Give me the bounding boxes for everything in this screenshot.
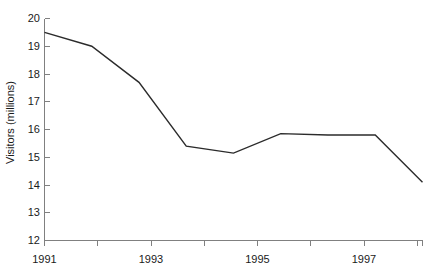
data-line-visitors: [45, 32, 423, 182]
x-axis-tick-labels: 1991 1993 1995 1997: [32, 253, 376, 265]
y-tick-label: 17: [28, 95, 40, 107]
y-tick-label: 12: [28, 234, 40, 246]
chart-container: Visitors (millions) 20 19 18 17 16 15 14…: [0, 0, 429, 271]
y-tick-label: 15: [28, 151, 40, 163]
x-tick-label: 1993: [139, 253, 163, 265]
x-tick-label: 1995: [245, 253, 269, 265]
y-axis-tick-labels: 20 19 18 17 16 15 14 13 12: [28, 12, 40, 246]
y-axis-label: Visitors (millions): [4, 81, 16, 164]
x-tick-label: 1991: [32, 253, 56, 265]
y-tick-label: 16: [28, 123, 40, 135]
y-tick-label: 14: [28, 179, 40, 191]
line-chart: Visitors (millions) 20 19 18 17 16 15 14…: [0, 0, 429, 271]
y-tick-label: 13: [28, 206, 40, 218]
x-tick-label: 1997: [352, 253, 376, 265]
x-axis-tick-marks: [45, 241, 423, 246]
y-axis-tick-marks: [45, 19, 50, 241]
y-tick-label: 18: [28, 68, 40, 80]
y-tick-label: 19: [28, 40, 40, 52]
y-tick-label: 20: [28, 12, 40, 24]
